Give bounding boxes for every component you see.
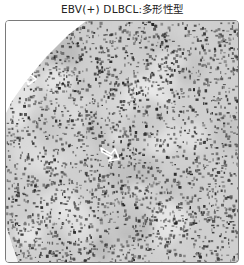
histology-image	[6, 21, 238, 262]
micrograph-panel	[5, 20, 239, 263]
figure-title: EBV(+) DLBCL:多形性型	[0, 2, 244, 16]
